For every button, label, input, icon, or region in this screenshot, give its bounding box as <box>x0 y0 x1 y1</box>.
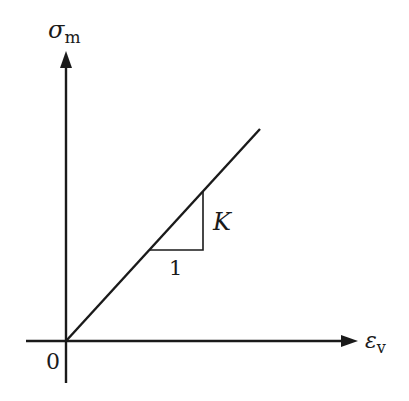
x-axis-label: εv <box>365 328 386 357</box>
y-axis-label: σm <box>48 16 81 47</box>
slope-label: K <box>212 208 233 236</box>
stress-strain-diagram: σm εv 0 K 1 <box>0 0 409 401</box>
x-axis-arrow-icon <box>341 335 358 347</box>
y-axis-arrow-icon <box>60 51 72 68</box>
origin-label: 0 <box>46 349 60 374</box>
run-label: 1 <box>169 256 182 280</box>
